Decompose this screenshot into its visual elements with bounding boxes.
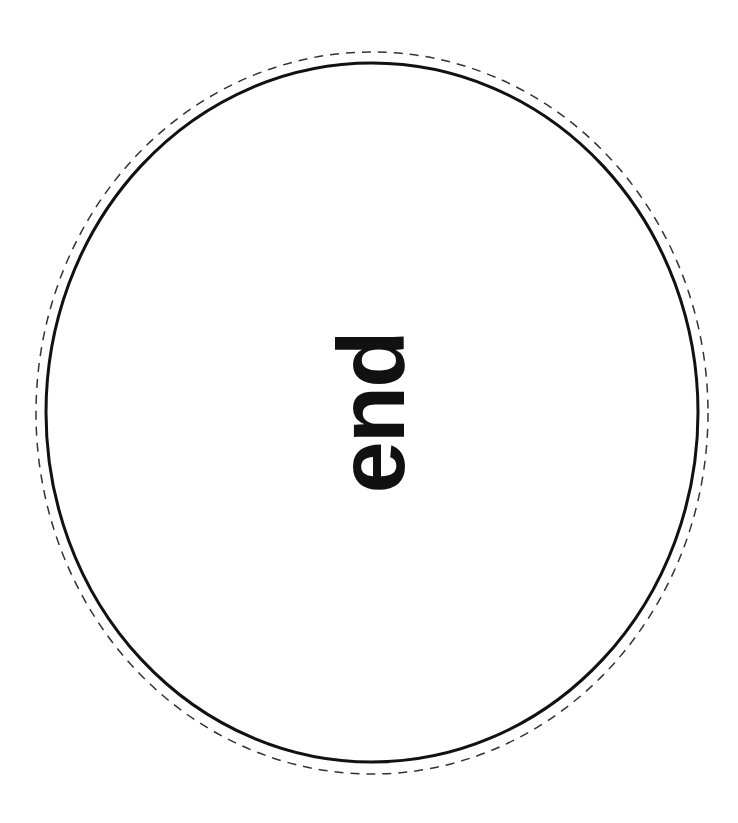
end-label: end — [325, 332, 419, 493]
